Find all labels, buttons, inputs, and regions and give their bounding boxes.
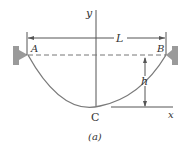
x-axis-label: x — [168, 109, 174, 120]
left-support-icon — [13, 46, 28, 65]
y-axis-label: y — [85, 7, 93, 20]
span-label: L — [115, 32, 123, 45]
point-c-label: C — [91, 111, 99, 124]
point-b-label: B — [156, 43, 164, 54]
point-a-label: A — [30, 43, 38, 54]
figure-caption: (a) — [88, 131, 102, 142]
sag-label: h — [141, 75, 148, 88]
right-support-icon — [166, 46, 178, 65]
cable-diagram: y x L h A B C (a) — [0, 0, 189, 152]
